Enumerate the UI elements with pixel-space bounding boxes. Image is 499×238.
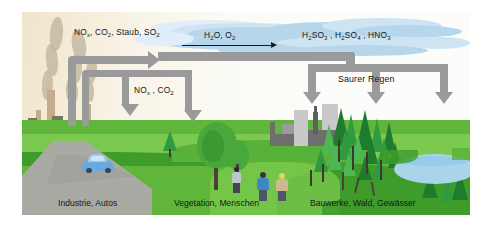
pipe-drop-center-2	[185, 74, 192, 112]
dead-tree-1	[342, 172, 344, 190]
pipe-riser-left	[68, 64, 76, 126]
forest-trunk-1	[338, 140, 340, 162]
car-wheel-front	[86, 168, 92, 173]
caption-targets: Bauwerke, Wald, Gewässer	[310, 198, 416, 208]
pipe-main-duct	[158, 52, 354, 61]
acid-rain-diagram: NOx, CO2, Staub, SO2 H2O, O2 H2SO3 , H2S…	[22, 12, 470, 215]
pipe-top-horizontal	[72, 56, 150, 64]
person-3-body	[276, 179, 288, 191]
church-tower	[313, 112, 318, 134]
forest-trunk-3	[366, 152, 368, 174]
lake-bank-right	[452, 148, 470, 160]
person-1-body	[232, 172, 241, 183]
pipe-riser-left-2	[82, 74, 89, 126]
caption-middle: Vegetation, Menschen	[174, 198, 259, 208]
conifer-center-left-trunk	[169, 149, 171, 157]
person-2-body	[257, 178, 269, 190]
figure-page: NOx, CO2, Staub, SO2 H2O, O2 H2SO3 , H2S…	[0, 0, 499, 238]
person-3-legs	[278, 191, 286, 201]
reaction-arrow-line	[182, 45, 272, 46]
city-building-5	[274, 134, 294, 146]
label-reactants: H2O, O2	[204, 30, 236, 41]
person-2-legs	[259, 190, 267, 201]
car-wheel-rear	[105, 168, 111, 173]
forest-trunk-2	[352, 146, 354, 170]
conifer-15	[358, 156, 372, 180]
arrow-down-center-2	[184, 110, 202, 122]
arrow-down-center-1	[121, 104, 139, 116]
car-window	[91, 156, 104, 161]
arrow-acid-rain-2	[367, 92, 385, 104]
label-emissions: NOx, CO2, Staub, SO2	[74, 27, 160, 38]
label-acids: H2SO3 , H2SO4 , HNO3	[302, 30, 391, 41]
arrow-acid-rain-3	[435, 92, 453, 104]
church-spire	[314, 106, 317, 114]
label-acid-rain: Saurer Regen	[338, 74, 395, 84]
arrow-acid-rain-1	[303, 92, 321, 104]
pipe-drop-center-1	[122, 74, 129, 106]
tree-crown-center-shade	[202, 130, 224, 162]
pipe-drop-right-3	[440, 64, 448, 94]
reaction-arrow-head	[271, 42, 277, 48]
cloud-10	[408, 37, 470, 49]
label-secondary-emissions: NOx , CO2	[134, 85, 174, 96]
pipe-mid-horizontal	[86, 70, 192, 77]
city-building-1	[294, 110, 308, 146]
city-chimney	[270, 122, 275, 146]
forest-trunk-6	[310, 170, 312, 186]
pipe-header-right	[308, 64, 448, 72]
conifer-center-left	[163, 131, 177, 151]
forest-trunk-5	[322, 164, 324, 182]
person-1-legs	[233, 183, 240, 193]
caption-source: Industrie, Autos	[58, 198, 117, 208]
conifer-13	[314, 148, 328, 172]
pipe-drop-right-1	[308, 64, 316, 94]
